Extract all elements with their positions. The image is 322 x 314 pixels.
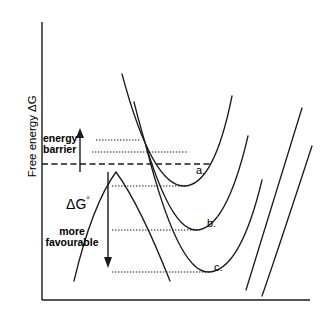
energy-barrier-line2: barrier xyxy=(43,143,76,155)
curve-label-b: b. xyxy=(207,218,216,230)
plot-area xyxy=(0,0,322,314)
energy-barrier-label: energy barrier xyxy=(43,133,89,156)
y-axis-label: Free energy ΔG xyxy=(26,56,38,216)
delta-g-label: ΔG° xyxy=(52,196,104,212)
delta-g-symbol: ΔG xyxy=(66,196,86,212)
delta-g-down-arrow-icon xyxy=(104,172,112,268)
more-favourable-label: more favourable xyxy=(38,226,106,249)
more-favourable-line2: favourable xyxy=(45,236,98,248)
curve-right-arm-lower xyxy=(262,146,312,296)
delta-g-degree-sign: ° xyxy=(86,195,90,205)
more-favourable-line1: more xyxy=(59,225,85,237)
curve-label-a: a. xyxy=(196,165,205,177)
energy-barrier-line1: energy xyxy=(43,132,77,144)
curve-product-a xyxy=(122,74,232,186)
curve-label-c: c. xyxy=(214,262,223,274)
free-energy-diagram: Free energy ΔG energy barrier ΔG° more f… xyxy=(0,0,322,314)
